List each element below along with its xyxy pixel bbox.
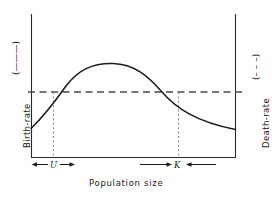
y-axis-title-birth-rate: Birth-rate [22, 103, 32, 148]
chart-canvas [0, 0, 272, 197]
marker-label-k: K [174, 160, 180, 170]
x-axis-title: Population size [89, 178, 163, 188]
y-axis-title-death-rate: Death-rate [261, 98, 271, 148]
legend-birth-rate-solid: (———) [11, 41, 21, 75]
population-dynamics-figure: Birth-rate (———) Death-rate (– – –) Popu… [0, 0, 272, 197]
birth-rate-curve [31, 63, 236, 129]
legend-death-rate-dashed: (– – –) [251, 54, 261, 80]
marker-label-u: U [50, 160, 57, 170]
